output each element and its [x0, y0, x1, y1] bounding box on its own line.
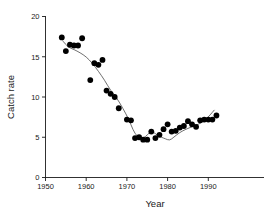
- data-point: [193, 124, 199, 130]
- x-tick-group: 19501960197019801990: [37, 178, 216, 191]
- data-point-group: [59, 35, 219, 143]
- y-tick-label: 10: [31, 93, 39, 102]
- y-axis-title: Catch rate: [5, 75, 16, 119]
- data-point: [181, 123, 187, 129]
- y-tick-group: 05101520: [31, 12, 45, 182]
- data-point: [100, 57, 106, 63]
- x-axis-title: Year: [145, 198, 164, 209]
- y-tick-label: 5: [35, 133, 39, 142]
- x-tick-label: 1950: [37, 182, 54, 191]
- data-point: [214, 113, 220, 119]
- data-point: [63, 48, 69, 54]
- chart-figure: 05101520 19501960197019801990 Year Catch…: [0, 0, 279, 219]
- y-tick-label: 20: [31, 12, 39, 21]
- data-point: [144, 137, 150, 143]
- data-point: [87, 77, 93, 83]
- data-point: [59, 35, 65, 41]
- x-axis: 19501960197019801990: [37, 178, 264, 191]
- data-point: [96, 62, 102, 68]
- data-point: [161, 126, 167, 132]
- data-point: [112, 94, 118, 100]
- data-point: [75, 43, 81, 49]
- x-tick-label: 1960: [78, 182, 95, 191]
- scatter-plot: 05101520 19501960197019801990 Year Catch…: [0, 0, 279, 219]
- data-point: [157, 132, 163, 138]
- y-tick-label: 15: [31, 53, 39, 62]
- data-point: [79, 35, 85, 41]
- data-point: [165, 121, 171, 127]
- x-tick-label: 1970: [119, 182, 136, 191]
- data-point: [116, 105, 122, 111]
- data-point: [128, 117, 134, 123]
- data-point: [148, 129, 154, 135]
- x-tick-label: 1990: [200, 182, 217, 191]
- y-axis: 05101520: [31, 12, 45, 182]
- x-tick-label: 1980: [159, 182, 176, 191]
